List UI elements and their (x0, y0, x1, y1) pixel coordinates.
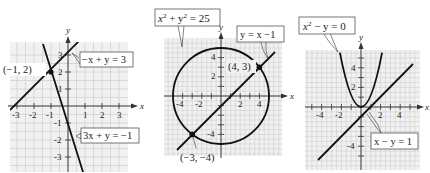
figure-canvas: x y -3 -2 -1 1 2 3 3 2 1 -1 -2 -3 (0, 0, 430, 173)
tick-label: 2 (211, 71, 216, 81)
tick-label: 2 (351, 82, 356, 92)
tick-label: -1 (54, 118, 62, 128)
tick-label: -2 (195, 99, 203, 109)
eq-term-y: + y (166, 12, 184, 24)
x-axis-arrow-icon (281, 94, 288, 99)
tick-label: -2 (29, 110, 37, 120)
eq-rhs: = 25 (187, 12, 210, 24)
graph-1: x y -3 -2 -1 1 2 3 3 2 1 -1 -2 -3 (1, 25, 144, 172)
tick-label: -4 (316, 110, 324, 120)
point-label-2: (−3, −4) (180, 152, 215, 164)
tick-label: -2 (335, 110, 343, 120)
equation-label-1: −x + y = 3 (82, 54, 126, 65)
tick-label: 3 (117, 110, 122, 120)
tick-label: 2 (238, 99, 243, 109)
tick-label: -4 (176, 99, 184, 109)
tick-label: -3 (54, 152, 62, 162)
equation-label-2: 3x + y = −1 (83, 130, 132, 141)
y-axis-arrow-icon (66, 36, 71, 43)
eq-rhs: − y = 0 (311, 20, 346, 32)
equation-label-2: y = x −1 (240, 29, 275, 40)
graph-2: x y -4 -2 2 4 4 2 -4 (4, (155, 9, 294, 164)
intersection-point-1 (257, 64, 263, 70)
tick-label: 4 (211, 52, 216, 62)
tick-label: 4 (397, 110, 402, 120)
point-label-1: (4, 3) (228, 61, 251, 73)
intersection-point (48, 69, 53, 74)
x-axis-label: x (424, 102, 429, 112)
tick-label: 2 (58, 67, 63, 77)
graph-3: x y -4 -2 2 4 4 2 -4 (299, 17, 429, 170)
tick-label: -1 (46, 110, 54, 120)
intersection-point-2 (189, 132, 195, 138)
y-axis-arrow-icon (359, 42, 364, 49)
tick-label: -2 (54, 135, 62, 145)
y-axis-label: y (358, 32, 363, 42)
x-axis-arrow-icon (417, 105, 424, 110)
tick-label: -4 (347, 141, 355, 151)
tick-label: -3 (12, 110, 20, 120)
x-axis-label: x (139, 101, 144, 111)
y-axis-arrow-icon (219, 32, 224, 39)
tick-label: 2 (378, 110, 383, 120)
x-axis-label: x (289, 91, 294, 101)
tick-label: 2 (100, 110, 105, 120)
tick-label: 1 (83, 110, 88, 120)
tick-label: 4 (351, 63, 356, 73)
equation-label-2: x − y = 1 (374, 136, 412, 147)
tick-label: 4 (257, 99, 262, 109)
x-axis-arrow-icon (131, 104, 138, 109)
point-label: (−1, 2) (3, 64, 32, 76)
tick-label: -4 (207, 129, 215, 139)
y-axis-label: y (65, 25, 70, 35)
